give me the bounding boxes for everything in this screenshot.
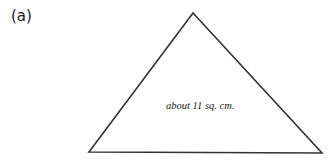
triangle-diagram bbox=[0, 0, 330, 161]
triangle-shape bbox=[89, 13, 322, 153]
area-label: about 11 sq. cm. bbox=[166, 100, 234, 111]
